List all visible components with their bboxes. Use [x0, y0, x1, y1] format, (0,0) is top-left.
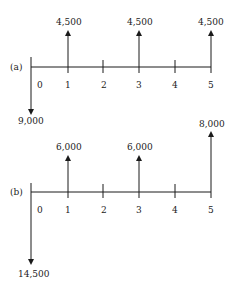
- flow-amount: 4,500: [127, 17, 153, 27]
- period-label: 4: [172, 80, 178, 90]
- period-label: 5: [208, 205, 214, 215]
- flow-amount: 4,500: [56, 17, 82, 27]
- period-label: 0: [37, 80, 43, 90]
- period-label: 4: [172, 205, 178, 215]
- period-label: 2: [101, 80, 107, 90]
- diagram-a-label: (a): [10, 62, 22, 72]
- period-label: 0: [37, 205, 43, 215]
- period-label: 3: [136, 205, 142, 215]
- flow-amount: 14,500: [18, 269, 50, 279]
- period-label: 1: [65, 80, 71, 90]
- diagram-b-label: (b): [10, 187, 23, 197]
- flow-amount: 6,000: [127, 142, 153, 152]
- period-label: 2: [101, 205, 107, 215]
- period-label: 5: [208, 80, 214, 90]
- cash-flow-diagram: (a) 0 1 2 3 4 5 9,000 4,500 4,500 4,500 …: [0, 0, 234, 292]
- flow-amount: 8,000: [199, 119, 225, 129]
- flow-amount: 4,500: [198, 17, 224, 27]
- period-label: 1: [65, 205, 71, 215]
- diagram-b: (b) 0 1 2 3 4 5 14,500 6,000 6,000 8,000: [10, 119, 225, 279]
- period-label: 3: [136, 80, 142, 90]
- flow-amount: 9,000: [18, 116, 44, 126]
- flow-amount: 6,000: [56, 142, 82, 152]
- diagram-a: (a) 0 1 2 3 4 5 9,000 4,500 4,500 4,500: [10, 17, 224, 126]
